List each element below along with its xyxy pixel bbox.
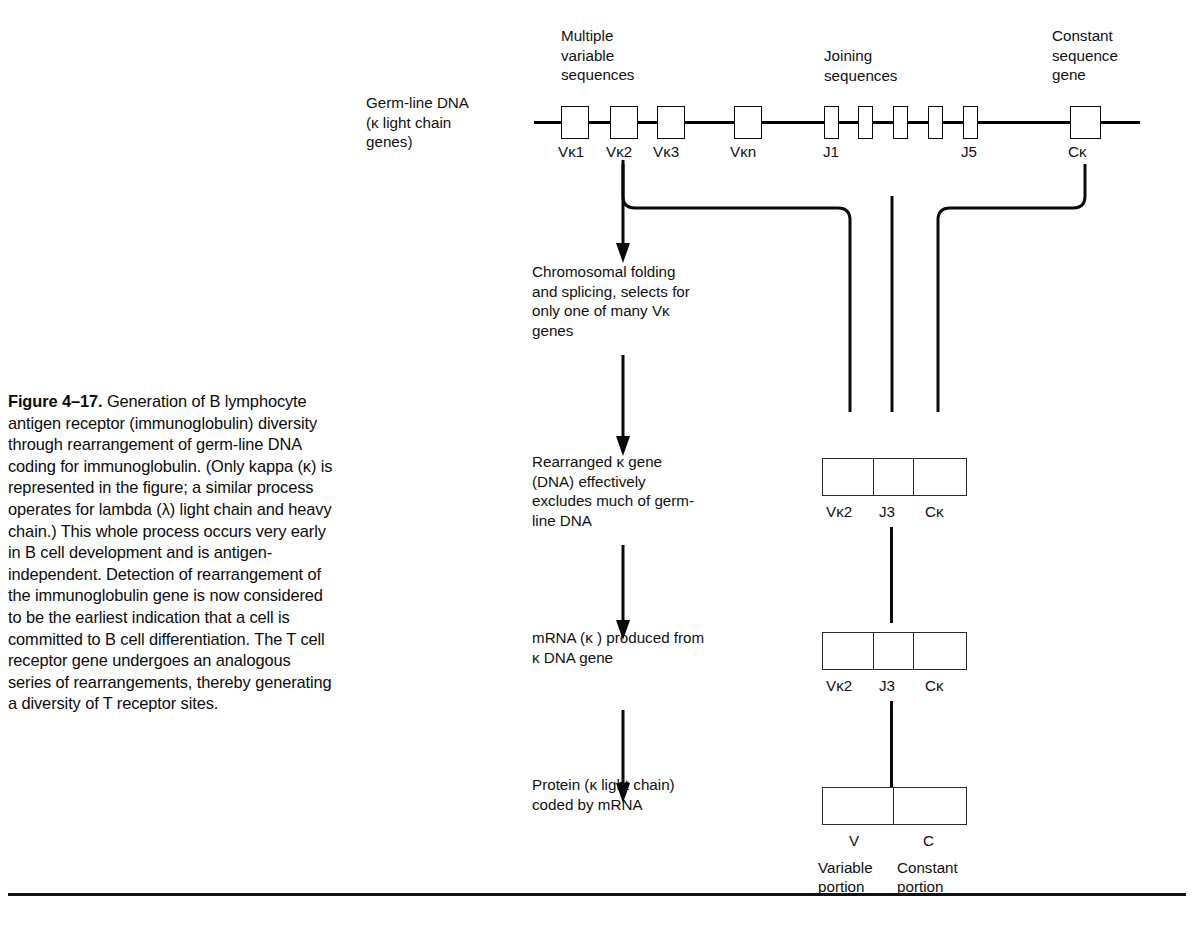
rearranged-label-j3: J3: [879, 503, 895, 520]
link-rearranged-to-mrna: [890, 527, 893, 623]
protein-segment-constant: [894, 788, 966, 824]
mrna-box: [822, 632, 967, 670]
rearranged-label-ck: Cκ: [925, 503, 944, 520]
mrna-label-vk2: Vκ2: [826, 677, 852, 694]
rearrangement-connectors: [0, 0, 1197, 460]
protein-box: [822, 787, 967, 825]
link-mrna-to-protein: [890, 701, 893, 794]
arrow-to-folding: [600, 160, 650, 270]
rearranged-segment-ck: [914, 459, 966, 495]
rearranged-segment-j3: [874, 459, 913, 495]
mrna-label-ck: Cκ: [925, 677, 944, 694]
rearranged-segment-vk2: [823, 459, 874, 495]
footer-rule: [8, 893, 1186, 896]
arrow-to-rearranged: [600, 355, 650, 465]
stage-label-rearranged-gene: Rearranged κ gene (DNA) effectively excl…: [532, 452, 694, 530]
stage-label-protein: Protein (κ light chain) coded by mRNA: [532, 775, 675, 814]
mrna-label-j3: J3: [879, 677, 895, 694]
mrna-segment-ck: [914, 633, 966, 669]
mrna-segment-vk2: [823, 633, 874, 669]
protein-label-v: V: [849, 832, 859, 849]
protein-segment-variable: [823, 788, 894, 824]
stage-label-chromosomal-folding: Chromosomal folding and splicing, select…: [532, 262, 690, 340]
connector-ck: [938, 164, 1085, 412]
mrna-segment-j3: [874, 633, 913, 669]
protein-sublabel-constant-portion: Constant portion: [897, 858, 958, 896]
protein-sublabel-variable-portion: Variable portion: [818, 858, 873, 896]
rearranged-gene-box: [822, 458, 967, 496]
figure-page: Figure 4–17. Generation of B lymphocyte …: [0, 0, 1197, 940]
stage-label-mrna: mRNA (κ ) produced from κ DNA gene: [532, 628, 704, 667]
protein-label-c: C: [923, 832, 934, 849]
rearranged-label-vk2: Vκ2: [826, 503, 852, 520]
